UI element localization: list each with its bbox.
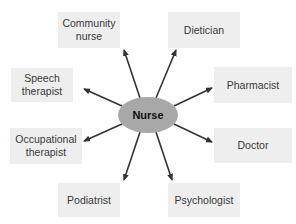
psychologist-label: Psychologist	[175, 194, 234, 207]
arrow-pharmacist	[174, 88, 212, 106]
podiatrist-label: Podiatrist	[67, 194, 111, 207]
speech-line1: Speech	[24, 72, 60, 84]
arrow-podiatrist	[124, 132, 140, 180]
node-dietician: Dietician	[168, 12, 240, 48]
arrow-occupational-therapist	[84, 124, 122, 141]
occupational-line2: therapist	[26, 146, 66, 158]
pharmacist-label: Pharmacist	[227, 79, 280, 92]
nurse-label: Nurse	[132, 109, 163, 121]
arrow-community-nurse	[124, 50, 140, 98]
node-podiatrist: Podiatrist	[58, 183, 120, 217]
community-nurse-line2: nurse	[76, 30, 102, 42]
node-occupational-therapist: Occupationaltherapist	[10, 128, 82, 164]
node-community-nurse: Communitynurse	[58, 12, 120, 48]
arrow-doctor	[174, 124, 212, 142]
node-speech-therapist: Speechtherapist	[11, 68, 73, 102]
arrow-speech-therapist	[84, 89, 122, 106]
arrow-dietician	[156, 50, 176, 98]
speech-line2: therapist	[22, 85, 62, 97]
dietician-label: Dietician	[184, 24, 224, 37]
node-psychologist: Psychologist	[168, 183, 240, 217]
arrow-psychologist	[156, 132, 172, 180]
doctor-label: Doctor	[238, 139, 269, 152]
node-doctor: Doctor	[214, 128, 292, 163]
node-pharmacist: Pharmacist	[214, 67, 292, 103]
nurse-hub: Nurse	[118, 97, 178, 133]
community-nurse-line1: Community	[62, 17, 115, 29]
occupational-line1: Occupational	[15, 133, 76, 145]
